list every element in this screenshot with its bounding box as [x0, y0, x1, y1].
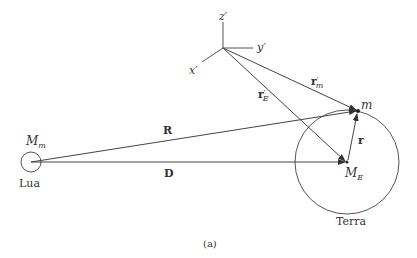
- vector-R: [31, 111, 356, 162]
- vector-D-label: D: [164, 167, 174, 180]
- vector-rE-prime-label: r′E: [258, 88, 269, 103]
- vector-rE-prime: [223, 48, 345, 161]
- vector-R-label: R: [163, 124, 173, 137]
- moon-mass-label: Mm: [25, 134, 46, 150]
- figure-caption: (a): [203, 238, 217, 249]
- particle-m-label: m: [361, 98, 372, 112]
- particle-m-dot: [356, 109, 360, 113]
- diagram-canvas: z′ y′ x′ m R D r r′E r′m Mm Lua ME Terra…: [0, 0, 417, 258]
- diagram-svg: z′ y′ x′ m R D r r′E r′m Mm Lua ME Terra…: [0, 0, 417, 258]
- vector-rm-prime-label: r′m: [311, 75, 324, 90]
- moon-name-label: Lua: [19, 177, 40, 190]
- earth-name-label: Terra: [336, 215, 367, 228]
- z-axis-label: z′: [218, 10, 228, 23]
- vector-r: [348, 114, 357, 160]
- earth-mass-label: ME: [344, 166, 363, 182]
- x-axis-label: x′: [189, 64, 198, 77]
- vector-r-label: r: [358, 134, 364, 147]
- x-axis: [202, 48, 223, 62]
- y-axis-label: y′: [256, 41, 266, 54]
- axes-origin: [202, 22, 253, 62]
- vector-rm-prime: [223, 48, 356, 110]
- earth-center-dot: [346, 161, 349, 164]
